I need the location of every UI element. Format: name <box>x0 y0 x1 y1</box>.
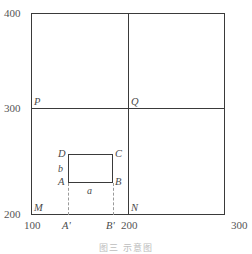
point-label-a: A <box>58 177 64 188</box>
point-label-m: M <box>34 203 43 214</box>
y-axis-tick-400: 400 <box>4 8 21 19</box>
y-axis-tick-200: 200 <box>4 209 21 220</box>
point-label-q: Q <box>131 97 139 108</box>
vertical-divider-line <box>128 13 129 215</box>
x-axis-tick-300: 300 <box>231 220 248 231</box>
point-label-n: N <box>131 203 138 214</box>
x-axis-tick-100: 100 <box>24 220 41 231</box>
point-label-b: B <box>115 177 121 188</box>
point-label-c: C <box>115 149 122 160</box>
dashed-projection-line-b <box>113 183 114 215</box>
inner-rectangle-abcd <box>68 154 113 183</box>
point-label-d: D <box>58 149 66 160</box>
y-axis-tick-300: 300 <box>4 103 21 114</box>
x-axis-tick-b-prime: B' <box>106 221 115 232</box>
side-length-label-a: a <box>87 186 92 196</box>
point-label-p: P <box>34 97 40 108</box>
side-length-label-b: b <box>58 164 63 174</box>
x-axis-tick-a-prime: A' <box>62 221 71 232</box>
x-axis-tick-200: 200 <box>121 220 138 231</box>
horizontal-divider-line <box>31 108 225 109</box>
dashed-projection-line-a <box>68 183 69 215</box>
figure-caption: 图三 示意图 <box>0 241 252 254</box>
